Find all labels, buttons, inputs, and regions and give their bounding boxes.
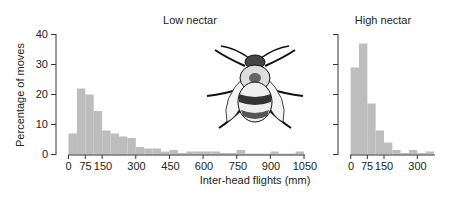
histogram-bar — [169, 150, 177, 155]
high-nectar-y-axis — [333, 34, 338, 155]
low-x-tick-labels: 0 75 150 300 450 600 750 900 1050 — [65, 160, 317, 172]
svg-text:0: 0 — [65, 160, 71, 172]
svg-text:150: 150 — [375, 160, 393, 172]
histogram-bar — [111, 134, 119, 155]
high-nectar-bars — [351, 44, 434, 155]
histogram-figure: Low nectar High nectar 0 10 20 30 40 Per… — [0, 0, 452, 207]
x-axis-label: Inter-head flights (mm) — [200, 174, 311, 186]
histogram-bar — [376, 131, 384, 155]
svg-text:40: 40 — [36, 28, 48, 40]
histogram-bar — [136, 147, 144, 155]
histogram-bar — [69, 134, 77, 155]
svg-text:0: 0 — [348, 160, 354, 172]
histogram-bar — [220, 153, 228, 155]
histogram-bar — [367, 104, 375, 155]
high-nectar-title: High nectar — [355, 14, 412, 26]
svg-text:300: 300 — [408, 160, 426, 172]
svg-text:600: 600 — [195, 160, 213, 172]
histogram-bar — [144, 149, 152, 155]
svg-text:900: 900 — [262, 160, 280, 172]
svg-text:300: 300 — [127, 160, 145, 172]
low-nectar-y-axis — [51, 34, 56, 155]
high-nectar-x-axis — [350, 155, 435, 159]
histogram-bar — [161, 152, 169, 155]
histogram-bar — [296, 152, 304, 155]
svg-text:1050: 1050 — [293, 160, 317, 172]
histogram-bar — [211, 152, 219, 155]
histogram-bar — [254, 154, 262, 155]
svg-text:30: 30 — [36, 58, 48, 70]
y-axis-label: Percentage of moves — [14, 43, 26, 147]
svg-text:20: 20 — [36, 88, 48, 100]
histogram-bar — [195, 152, 203, 155]
low-nectar-x-axis — [68, 155, 305, 159]
histogram-bar — [203, 152, 211, 155]
histogram-bar — [359, 44, 367, 155]
svg-text:75: 75 — [79, 160, 91, 172]
histogram-bar — [102, 131, 110, 155]
histogram-bar — [178, 153, 186, 155]
histogram-bar — [186, 152, 194, 155]
svg-text:75: 75 — [361, 160, 373, 172]
histogram-bar — [351, 68, 359, 155]
histogram-bar — [245, 154, 253, 155]
y-tick-labels: 0 10 20 30 40 — [36, 28, 48, 160]
histogram-bar — [77, 89, 85, 155]
histogram-bar — [279, 154, 287, 155]
histogram-bar — [153, 149, 161, 155]
svg-text:750: 750 — [229, 160, 247, 172]
histogram-bar — [119, 137, 127, 155]
histogram-bar — [85, 95, 93, 155]
histogram-bar — [127, 138, 135, 155]
histogram-bar — [401, 153, 409, 155]
low-nectar-title: Low nectar — [163, 14, 217, 26]
histogram-bar — [228, 153, 236, 155]
bumblebee-icon — [207, 46, 303, 128]
histogram-bar — [270, 152, 278, 155]
histogram-bar — [262, 154, 270, 155]
histogram-bar — [237, 150, 245, 155]
histogram-bar — [392, 150, 400, 155]
histogram-bar — [94, 111, 102, 155]
svg-text:10: 10 — [36, 118, 48, 130]
histogram-bar — [384, 143, 392, 155]
histogram-bar — [417, 153, 425, 155]
high-x-tick-labels: 0 75 150 300 — [348, 160, 427, 172]
histogram-bar — [287, 154, 295, 155]
svg-text:450: 450 — [161, 160, 179, 172]
histogram-bar — [426, 152, 434, 155]
svg-text:150: 150 — [94, 160, 112, 172]
svg-text:0: 0 — [42, 148, 48, 160]
histogram-bar — [409, 150, 417, 155]
